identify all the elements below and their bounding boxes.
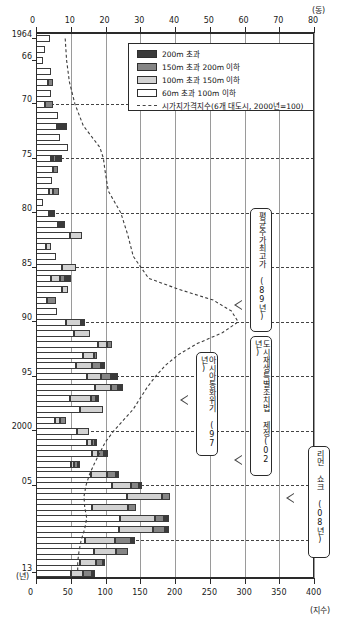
- bar-segment-m150_200: [115, 537, 132, 544]
- bar-row: [36, 188, 314, 195]
- bar-segment-m150_200: [111, 384, 118, 391]
- bar-segment-m60_100: [36, 373, 87, 380]
- top-tick-50: 50: [204, 16, 214, 25]
- bar-segment-m60_100: [36, 134, 60, 141]
- legend-label-over200: 200m 초과: [162, 48, 200, 59]
- bar-row: [36, 493, 314, 500]
- bar-row: [36, 395, 314, 402]
- year-tick-1980: 80: [2, 204, 32, 213]
- bar-segment-m60_100: [36, 199, 43, 206]
- bar-segment-over200: [165, 526, 168, 533]
- bar-segment-m60_100: [36, 471, 91, 478]
- bar-row: [36, 199, 314, 206]
- bar-segment-over200: [57, 123, 67, 130]
- bar-segment-m100_150: [83, 352, 94, 359]
- bar-segment-m60_100: [36, 112, 58, 119]
- bar-segment-over200: [118, 384, 123, 391]
- bar-segment-m100_150: [112, 482, 131, 489]
- bar-row: [36, 352, 314, 359]
- bar-segment-m60_100: [36, 79, 48, 86]
- annotation-asia-crisis-text: 아시아통화위기 (97년): [199, 356, 216, 455]
- top-tick-20: 20: [100, 16, 110, 25]
- bottom-tick-150: 150: [132, 588, 147, 597]
- year-tick-1985: 85: [2, 259, 32, 268]
- bar-segment-over200: [104, 450, 107, 457]
- bar-segment-m60_100: [36, 515, 120, 522]
- bottom-tickmark-400: [314, 578, 315, 584]
- bar-segment-m60_100: [36, 253, 56, 260]
- annotation-lehman-shock-pointer-inner: [288, 494, 294, 502]
- bar-segment-m100_150: [87, 373, 102, 380]
- bar-row: [36, 166, 314, 173]
- bar-segment-m60_100: [36, 526, 119, 533]
- bar-segment-m150_200: [94, 352, 97, 359]
- bar-segment-m60_100: [36, 504, 92, 511]
- bar-segment-m60_100: [36, 482, 112, 489]
- bar-segment-m100_150: [119, 526, 153, 533]
- bar-row: [36, 330, 314, 337]
- bar-row: [36, 548, 314, 555]
- bar-segment-m100_150: [95, 384, 111, 391]
- bar-segment-m100_150: [66, 319, 81, 326]
- bar-segment-over200: [111, 373, 118, 380]
- bottom-tick-100: 100: [98, 588, 113, 597]
- year-tick-2000: 2000: [2, 422, 32, 431]
- bar-segment-over200: [116, 471, 119, 478]
- bottom-tick-200: 200: [167, 588, 182, 597]
- bar-segment-m150_200: [92, 362, 101, 369]
- bar-segment-m60_100: [36, 35, 50, 42]
- bar-segment-m60_100: [36, 123, 57, 130]
- bar-segment-m100_150: [80, 559, 96, 566]
- legend-swatch-over200: [137, 50, 157, 58]
- bar-segment-m100_150: [77, 428, 89, 435]
- annotation-asia-crisis: 아시아통화위기 (97년): [196, 352, 218, 456]
- bar-row: [36, 362, 314, 369]
- bottom-tick-0: 0: [28, 588, 33, 597]
- bar-segment-over200: [95, 439, 97, 446]
- bar-segment-m150_200: [128, 504, 136, 511]
- year-tick-1990: 90: [2, 313, 32, 322]
- bar-segment-m100_150: [85, 537, 115, 544]
- annotation-lehman-shock: 리먼 쇼크 (08년): [308, 446, 330, 558]
- bar-segment-m60_100: [36, 461, 71, 468]
- bar-segment-m150_200: [155, 515, 164, 522]
- bar-segment-over200: [81, 319, 84, 326]
- bar-segment-m150_200: [53, 166, 58, 173]
- bar-row: [36, 286, 314, 293]
- bar-row: [36, 308, 314, 315]
- bar-segment-over200: [58, 221, 65, 228]
- bar-segment-m60_100: [36, 210, 49, 217]
- bar-row: [36, 297, 314, 304]
- bar-segment-m100_150: [74, 330, 89, 337]
- bar-segment-m100_150: [127, 493, 162, 500]
- bar-segment-m60_100: [36, 439, 87, 446]
- annotation-urban-regen-law-pointer-inner: [236, 456, 242, 464]
- bar-row: [36, 526, 314, 533]
- bar-segment-m60_100: [36, 243, 46, 250]
- bar-row: [36, 35, 314, 42]
- bar-row: [36, 471, 314, 478]
- legend-swatch-100-150: [137, 76, 157, 84]
- bar-segment-m60_100: [36, 570, 71, 577]
- bar-row: [36, 461, 314, 468]
- bottom-tick-350: 350: [271, 588, 286, 597]
- bar-row: [36, 221, 314, 228]
- bar-segment-m150_200: [83, 570, 91, 577]
- bar-row: [36, 341, 314, 348]
- bar-segment-over200: [49, 210, 56, 217]
- bar-segment-over200: [103, 559, 106, 566]
- bar-segment-m60_100: [36, 286, 62, 293]
- legend-item-index-line: 시가지가격지수(6개 대도시, 2000년=100): [137, 100, 303, 111]
- bar-segment-m60_100: [36, 275, 51, 282]
- bottom-axis-line: [36, 578, 314, 579]
- bar-row: [36, 319, 314, 326]
- bar-segment-m60_100: [36, 537, 85, 544]
- bar-segment-over200: [65, 275, 71, 282]
- bar-segment-m60_100: [36, 188, 49, 195]
- bar-segment-m60_100: [36, 384, 95, 391]
- annotation-stock-peak: 평균주가최고가 (89년): [250, 208, 272, 332]
- bar-row: [36, 384, 314, 391]
- top-tick-70: 70: [273, 16, 283, 25]
- bar-row: [36, 243, 314, 250]
- bar-segment-m100_150: [71, 570, 83, 577]
